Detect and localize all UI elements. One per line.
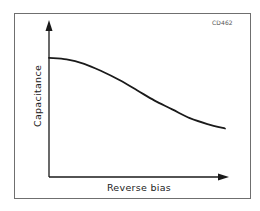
x-axis-label: Reverse bias (49, 182, 229, 193)
figure-code-label: CD462 (212, 19, 233, 26)
y-axis-arrow-icon (46, 20, 53, 31)
capacitance-curve (49, 58, 225, 129)
y-axis-label: Capacitance (32, 65, 43, 127)
x-axis-arrow-icon (218, 174, 229, 181)
